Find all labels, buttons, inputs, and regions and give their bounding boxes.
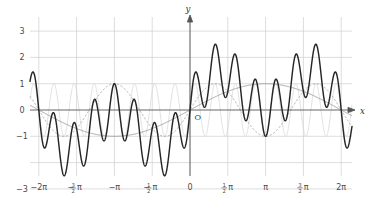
y-axis-arrow [187,15,192,22]
x-tick-label: −π [109,183,121,192]
x-tick-label: −32π [68,182,82,193]
x-tick-label: −12π [143,182,157,193]
y-tick-label: 3 [19,27,24,36]
x-tick-label: 0 [187,183,192,192]
y-tick-label: 2 [19,53,24,62]
sine-superposition-plot: −2π−32π−π−12π012ππ32π2π3210−1−3xyO [0,0,369,210]
svg-text:2: 2 [147,188,150,194]
graph-canvas: −2π−32π−π−12π012ππ32π2π3210−1−3xyO [0,0,369,210]
x-tick-label: 2π [336,183,346,192]
x-tick-label: π [263,183,268,192]
svg-text:2: 2 [71,188,74,194]
y-tick-label: 0 [19,106,24,115]
svg-text:π: π [153,183,158,192]
svg-text:2: 2 [298,188,301,194]
x-tick-label: 32π [297,182,309,193]
svg-text:π: π [304,183,309,192]
x-tick-label: 12π [222,182,234,193]
svg-text:2: 2 [223,188,226,194]
y-axis-label: y [185,4,191,14]
y-tick-label: 1 [19,80,24,89]
x-axis-label: x [360,106,365,116]
x-tick-label: −2π [30,183,47,192]
origin-label: O [195,113,202,122]
svg-text:π: π [77,183,82,192]
y-tick-label: −1 [16,132,28,141]
svg-text:π: π [228,183,233,192]
y-tick-label: −3 [16,185,28,194]
